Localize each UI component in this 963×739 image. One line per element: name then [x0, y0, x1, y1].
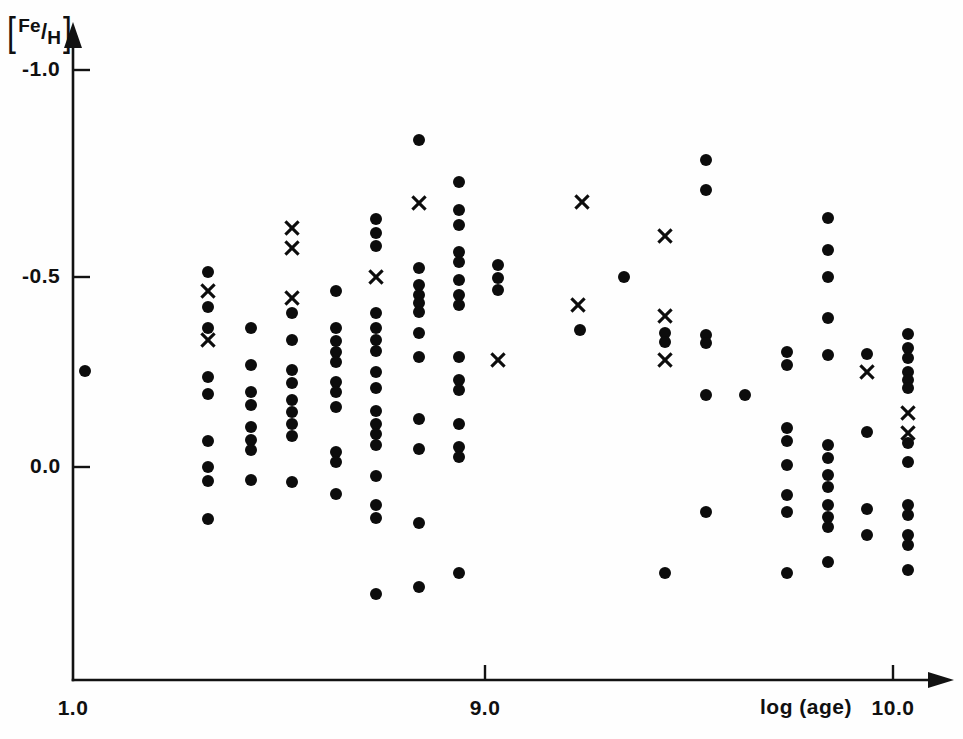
- data-point-cross: [201, 284, 214, 297]
- data-point-cross: [901, 406, 914, 419]
- data-point-dot: [822, 244, 834, 256]
- data-point-dot: [330, 285, 342, 297]
- data-point-cross: [860, 365, 873, 378]
- data-point-dot: [413, 351, 425, 363]
- data-point-dot: [286, 406, 298, 418]
- data-point-dot: [700, 337, 712, 349]
- data-point-dot: [902, 352, 914, 364]
- data-point-dot: [79, 365, 91, 377]
- data-point-dot: [822, 271, 834, 283]
- data-point-dot: [413, 413, 425, 425]
- data-point-dot: [822, 212, 834, 224]
- data-point-dot: [370, 345, 382, 357]
- data-point-dot: [861, 426, 873, 438]
- data-point-dot: [822, 452, 834, 464]
- data-point-dot: [822, 556, 834, 568]
- data-point-dot: [902, 456, 914, 468]
- data-point-dot: [822, 349, 834, 361]
- data-point-dot: [286, 364, 298, 376]
- fe-over-h-fraction: Fe / H: [17, 19, 62, 45]
- data-point-dot: [781, 435, 793, 447]
- data-point-dot: [492, 284, 504, 296]
- data-point-dot: [781, 506, 793, 518]
- data-point-dot: [413, 262, 425, 274]
- data-point-cross: [491, 353, 504, 366]
- y-tick-label-1: -0.5: [22, 264, 60, 288]
- data-point-dot: [781, 359, 793, 371]
- y-tick-label-2: 0.0: [30, 454, 61, 478]
- data-point-dot: [370, 213, 382, 225]
- data-point-dot: [202, 388, 214, 400]
- data-point-dot: [453, 351, 465, 363]
- data-point-dot: [659, 567, 671, 579]
- data-point-cross: [571, 298, 584, 311]
- data-point-dot: [781, 422, 793, 434]
- x-axis-arrow-icon: [928, 672, 954, 688]
- x-tick-label-2: 10.0: [872, 696, 915, 720]
- data-point-dot: [700, 154, 712, 166]
- data-point-dot: [822, 312, 834, 324]
- axes-layer: [64, 22, 954, 688]
- data-point-dot: [453, 567, 465, 579]
- data-point-cross: [575, 195, 588, 208]
- data-point-dot: [902, 539, 914, 551]
- data-point-dot: [413, 306, 425, 318]
- plot-canvas: [0, 0, 963, 739]
- data-point-dot: [330, 401, 342, 413]
- data-point-dot: [245, 359, 257, 371]
- data-point-dot: [370, 428, 382, 440]
- data-point-dot: [330, 386, 342, 398]
- data-point-dot: [370, 227, 382, 239]
- data-point-cross: [201, 333, 214, 346]
- data-point-cross: [285, 291, 298, 304]
- data-point-dot: [413, 581, 425, 593]
- data-point-cross: [369, 270, 382, 283]
- data-point-dot: [781, 346, 793, 358]
- data-point-dot: [781, 567, 793, 579]
- data-point-cross: [285, 241, 298, 254]
- data-point-dot: [453, 274, 465, 286]
- data-point-dot: [202, 371, 214, 383]
- data-point-dot: [370, 439, 382, 451]
- data-point-dot: [202, 435, 214, 447]
- data-point-dot: [370, 366, 382, 378]
- data-point-dot: [822, 481, 834, 493]
- y-axis-label: [ Fe / H ]: [6, 10, 73, 54]
- data-point-dot: [453, 176, 465, 188]
- data-point-cross: [658, 229, 671, 242]
- data-point-dot: [822, 499, 834, 511]
- data-point-dot: [286, 394, 298, 406]
- data-point-cross: [412, 196, 425, 209]
- data-point-dot: [453, 204, 465, 216]
- data-point-cross: [658, 353, 671, 366]
- data-point-dot: [822, 521, 834, 533]
- data-point-dot: [370, 470, 382, 482]
- data-point-dot: [245, 444, 257, 456]
- data-point-dot: [700, 389, 712, 401]
- data-point-dot: [370, 382, 382, 394]
- y-axis-denominator: H: [47, 27, 61, 49]
- x-tick-label-1: 9.0: [470, 696, 501, 720]
- data-point-dot: [618, 271, 630, 283]
- data-point-dot: [902, 382, 914, 394]
- data-point-dot: [413, 134, 425, 146]
- data-point-dot: [902, 509, 914, 521]
- data-point-dot: [453, 451, 465, 463]
- data-point-dot: [286, 377, 298, 389]
- data-point-dot: [453, 418, 465, 430]
- data-point-dot: [902, 564, 914, 576]
- data-points-layer: [79, 134, 915, 600]
- data-point-dot: [330, 456, 342, 468]
- data-point-dot: [330, 356, 342, 368]
- y-axis-numerator: Fe: [18, 15, 41, 37]
- data-point-dot: [822, 439, 834, 451]
- data-point-dot: [413, 327, 425, 339]
- data-point-dot: [902, 328, 914, 340]
- data-point-dot: [245, 421, 257, 433]
- data-point-dot: [202, 266, 214, 278]
- data-point-dot: [286, 334, 298, 346]
- bracket-open-glyph: [: [7, 14, 16, 50]
- data-point-dot: [739, 389, 751, 401]
- data-point-dot: [659, 336, 671, 348]
- data-point-dot: [370, 405, 382, 417]
